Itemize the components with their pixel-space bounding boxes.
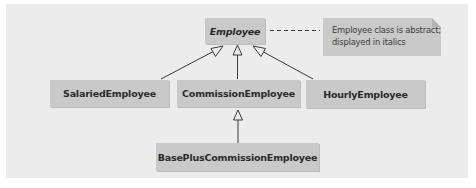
class-commission-employee-name: CommissionEmployee bbox=[182, 88, 295, 99]
generalization-arrow-hourly-to-employee bbox=[253, 46, 313, 79]
diagram-canvas: Employee Employee class is abstract; dis… bbox=[0, 0, 476, 188]
class-employee[interactable]: Employee bbox=[205, 18, 265, 44]
note-line-1: Employee class is abstract; bbox=[332, 24, 441, 36]
class-base-plus-commission-employee-name: BasePlusCommissionEmployee bbox=[158, 152, 318, 163]
class-commission-employee[interactable]: CommissionEmployee bbox=[177, 80, 300, 107]
generalization-arrow-salaried-to-employee bbox=[161, 46, 223, 79]
class-employee-name: Employee bbox=[210, 26, 260, 37]
note-abstract-explanation: Employee class is abstract; displayed in… bbox=[323, 18, 441, 56]
class-base-plus-commission-employee[interactable]: BasePlusCommissionEmployee bbox=[156, 143, 319, 171]
class-salaried-employee-name: SalariedEmployee bbox=[63, 88, 156, 99]
class-salaried-employee[interactable]: SalariedEmployee bbox=[50, 80, 169, 107]
generalization-arrow-commission-to-employee bbox=[233, 45, 242, 79]
note-line-2: displayed in italics bbox=[332, 36, 441, 48]
generalization-arrow-baseplus-to-commission bbox=[234, 110, 243, 143]
class-hourly-employee[interactable]: HourlyEmployee bbox=[306, 80, 425, 108]
class-hourly-employee-name: HourlyEmployee bbox=[323, 89, 408, 100]
